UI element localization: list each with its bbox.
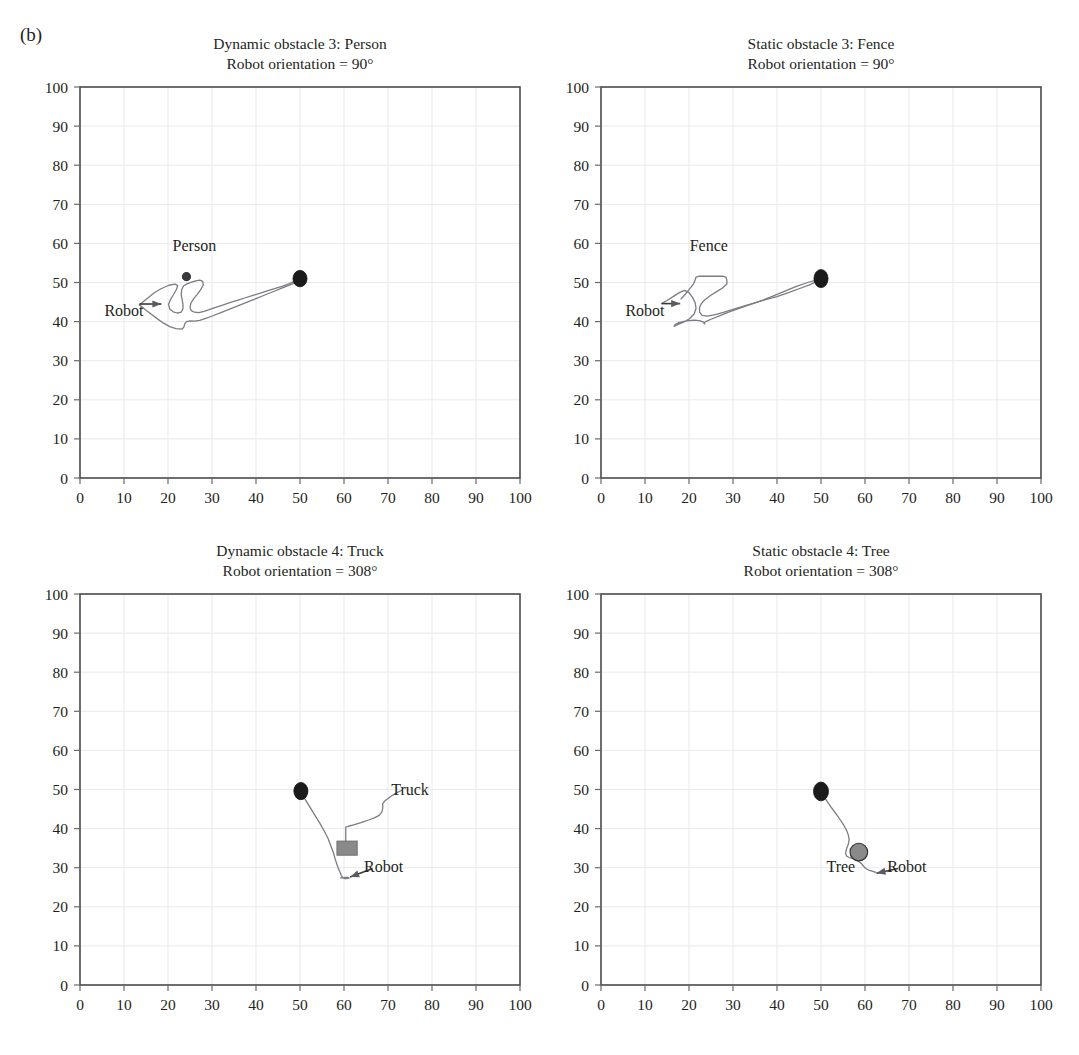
y-tick-label: 20 [53, 391, 69, 408]
x-tick-label: 0 [597, 489, 605, 506]
x-tick-label: 50 [292, 489, 308, 506]
x-tick-label: 20 [681, 996, 697, 1013]
plot-subtitle: Robot orientation = 90° [226, 55, 373, 72]
robot-arrow-head [350, 871, 360, 878]
y-tick-label: 50 [53, 274, 69, 291]
panel-label: (b) [20, 24, 42, 46]
trajectory-robot-path-lower [662, 279, 819, 326]
y-tick-label: 40 [574, 820, 590, 837]
y-tick-label: 10 [574, 937, 590, 954]
annotation-robot: Robot [364, 858, 404, 875]
goal-marker [814, 270, 828, 288]
y-tick-label: 0 [581, 470, 589, 487]
y-tick-label: 60 [574, 235, 590, 252]
y-tick-label: 30 [574, 859, 590, 876]
y-tick-label: 90 [53, 118, 69, 135]
y-tick-label: 40 [53, 313, 69, 330]
y-tick-label: 80 [574, 664, 590, 681]
figure-plots-svg: Dynamic obstacle 3: PersonRobot orientat… [0, 0, 1079, 1055]
start-marker [294, 782, 308, 799]
y-tick-label: 50 [574, 781, 590, 798]
x-tick-label: 30 [725, 489, 741, 506]
x-tick-label: 60 [857, 489, 873, 506]
annotation-robot: Robot [625, 302, 665, 319]
x-tick-label: 20 [160, 489, 176, 506]
x-tick-label: 0 [76, 996, 84, 1013]
x-tick-label: 40 [769, 489, 785, 506]
y-tick-label: 100 [566, 586, 590, 603]
x-tick-label: 10 [637, 996, 653, 1013]
y-tick-label: 40 [574, 313, 590, 330]
x-tick-label: 60 [857, 996, 873, 1013]
y-tick-label: 10 [53, 430, 69, 447]
goal-marker [293, 270, 307, 286]
x-tick-label: 40 [248, 489, 264, 506]
x-tick-label: 10 [116, 996, 132, 1013]
y-tick-label: 60 [574, 742, 590, 759]
x-tick-label: 20 [681, 489, 697, 506]
y-tick-label: 60 [53, 235, 69, 252]
y-tick-label: 80 [53, 664, 69, 681]
y-tick-label: 80 [574, 157, 590, 174]
x-tick-label: 100 [1029, 996, 1053, 1013]
x-tick-label: 50 [813, 489, 829, 506]
x-tick-label: 100 [1029, 489, 1053, 506]
x-tick-label: 70 [380, 996, 396, 1013]
plot-static-obstacle-3-fence: Static obstacle 3: FenceRobot orientatio… [566, 35, 1053, 506]
robot-arrow-head [152, 300, 161, 307]
plot-title: Static obstacle 3: Fence [748, 35, 895, 52]
robot-arrow-head [671, 300, 680, 307]
x-tick-label: 100 [508, 996, 532, 1013]
plot-title: Dynamic obstacle 4: Truck [216, 542, 384, 559]
x-tick-label: 90 [989, 489, 1005, 506]
plot-dynamic-obstacle-3-person: Dynamic obstacle 3: PersonRobot orientat… [45, 35, 532, 506]
person-marker [183, 273, 191, 281]
y-tick-label: 90 [53, 625, 69, 642]
y-tick-label: 30 [53, 352, 69, 369]
x-tick-label: 80 [945, 996, 961, 1013]
x-tick-label: 70 [901, 489, 917, 506]
trajectory-robot-path [301, 791, 349, 879]
plot-title: Static obstacle 4: Tree [752, 542, 889, 559]
y-tick-label: 0 [60, 977, 68, 994]
plot-subtitle: Robot orientation = 308° [223, 562, 378, 579]
y-tick-label: 100 [45, 79, 69, 96]
y-tick-label: 60 [53, 742, 69, 759]
x-tick-label: 80 [424, 996, 440, 1013]
y-tick-label: 90 [574, 625, 590, 642]
x-tick-label: 60 [336, 489, 352, 506]
x-tick-label: 90 [468, 996, 484, 1013]
x-tick-label: 50 [813, 996, 829, 1013]
plot-static-obstacle-4-tree: Static obstacle 4: TreeRobot orientation… [566, 542, 1053, 1013]
y-tick-label: 70 [53, 196, 69, 213]
x-tick-label: 40 [769, 996, 785, 1013]
x-tick-label: 0 [597, 996, 605, 1013]
y-tick-label: 10 [53, 937, 69, 954]
x-tick-label: 50 [292, 996, 308, 1013]
y-tick-label: 20 [574, 898, 590, 915]
annotation-tree: Tree [826, 858, 855, 875]
x-tick-label: 60 [336, 996, 352, 1013]
trajectory-robot-path [139, 279, 300, 313]
annotation-person: Person [173, 237, 217, 254]
x-tick-label: 10 [637, 489, 653, 506]
y-tick-label: 100 [566, 79, 590, 96]
x-tick-label: 40 [248, 996, 264, 1013]
annotation-fence: Fence [690, 237, 728, 254]
x-tick-label: 10 [116, 489, 132, 506]
annotation-robot: Robot [104, 302, 144, 319]
y-tick-label: 70 [53, 703, 69, 720]
x-tick-label: 30 [204, 996, 220, 1013]
plot-title: Dynamic obstacle 3: Person [213, 35, 387, 52]
robot-arrow-head [876, 868, 886, 875]
x-tick-label: 70 [380, 489, 396, 506]
x-tick-label: 90 [989, 996, 1005, 1013]
y-tick-label: 100 [45, 586, 69, 603]
x-tick-label: 90 [468, 489, 484, 506]
x-tick-label: 20 [160, 996, 176, 1013]
annotation-robot: Robot [887, 858, 927, 875]
y-tick-label: 0 [581, 977, 589, 994]
annotation-truck: Truck [391, 781, 429, 798]
y-tick-label: 90 [574, 118, 590, 135]
x-tick-label: 70 [901, 996, 917, 1013]
